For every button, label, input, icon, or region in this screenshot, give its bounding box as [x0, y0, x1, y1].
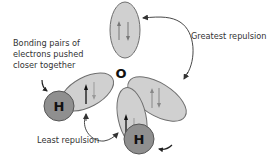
bonding-note-line1: Bonding pairs of: [13, 38, 81, 48]
hydrogen-label: H: [134, 132, 145, 147]
small-curved-arrow-icon: [159, 145, 172, 149]
least-repulsion-label: Least repulsion: [37, 135, 99, 145]
oxygen-label: O: [115, 66, 126, 81]
greatest-repulsion-label: Greatest repulsion: [191, 31, 267, 41]
lone-pair-orbital-top: [110, 2, 140, 58]
hydrogen-atom-left: H: [44, 91, 74, 121]
greatest-repulsion-arrow-icon: [143, 17, 193, 74]
bonding-pairs-pointer-arrow-icon: [42, 80, 47, 91]
hydrogen-label: H: [54, 99, 65, 114]
bonding-note-line3: closer together: [13, 60, 76, 70]
hydrogen-atom-bottom: H: [124, 124, 154, 154]
water-molecule-diagram: H H O Bonding pairs of electrons pushed …: [0, 0, 268, 163]
bonding-note-line2: electrons pushed: [13, 49, 83, 59]
